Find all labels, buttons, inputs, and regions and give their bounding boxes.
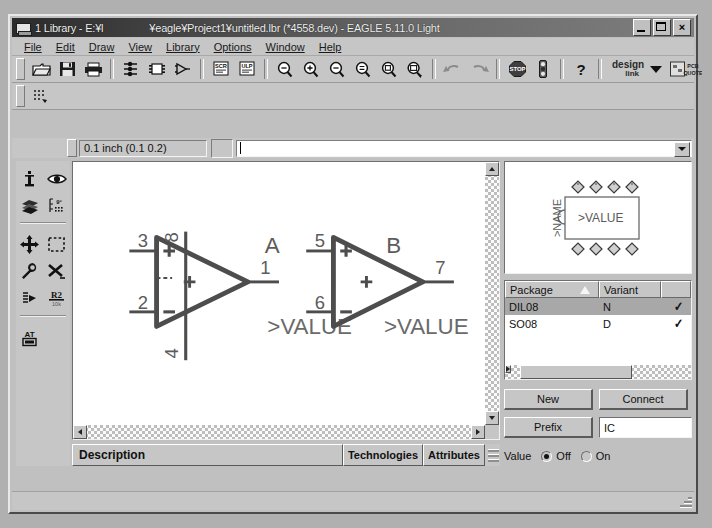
package-table-hscrollbar[interactable]: [505, 365, 691, 379]
ulp-icon[interactable]: ULP: [235, 58, 259, 81]
package-table-header: Package Variant: [505, 281, 691, 298]
save-icon[interactable]: [55, 58, 79, 81]
zoom-select-icon[interactable]: [377, 58, 401, 81]
paste-tool-icon[interactable]: [16, 285, 43, 312]
column-header-connected[interactable]: [661, 281, 691, 298]
undo-icon[interactable]: [441, 58, 465, 81]
preview-value-label: >VALUE: [578, 211, 623, 225]
prefix-input[interactable]: IC: [599, 417, 692, 438]
triangle-right-icon: [476, 429, 480, 435]
zoom-in-icon[interactable]: [299, 58, 323, 81]
device-edit-icon[interactable]: [171, 58, 195, 81]
menu-item-view[interactable]: View: [128, 41, 152, 53]
pkg-scroll-right-button[interactable]: [505, 365, 511, 373]
value-on-radio[interactable]: [581, 451, 592, 462]
print-icon[interactable]: [81, 58, 105, 81]
text-tool-icon[interactable]: AT: [16, 324, 43, 351]
package-preview[interactable]: >NAME >VALUE: [504, 161, 692, 274]
pkg-hscroll-thumb[interactable]: [520, 365, 632, 379]
scroll-down-button[interactable]: [485, 411, 499, 425]
connect-button[interactable]: Connect: [599, 389, 688, 410]
package-edit-icon[interactable]: [145, 58, 169, 81]
move-tool-icon[interactable]: [16, 231, 43, 258]
maximize-button[interactable]: [653, 19, 671, 36]
menu-item-options[interactable]: Options: [214, 41, 252, 53]
command-input[interactable]: [236, 140, 692, 157]
column-header-package[interactable]: Package: [505, 281, 599, 298]
pin-number: 5: [315, 230, 325, 251]
design-link-label-1: design: [612, 60, 644, 69]
zoom-redraw-icon[interactable]: [351, 58, 375, 81]
help-icon[interactable]: ?: [569, 58, 593, 81]
traffic-light-icon[interactable]: [531, 58, 555, 81]
stop-icon[interactable]: STOP: [505, 58, 529, 81]
svg-text:PCB: PCB: [688, 63, 699, 69]
menu-item-library[interactable]: Library: [166, 41, 200, 53]
svg-text:AT: AT: [24, 330, 34, 339]
command-history-dropdown[interactable]: [674, 142, 690, 157]
value-off-radio[interactable]: [541, 451, 552, 462]
menu-item-file[interactable]: File: [24, 41, 42, 53]
table-row[interactable]: DIL08 N ✓: [505, 298, 691, 315]
open-icon[interactable]: [29, 58, 53, 81]
change-tool-icon[interactable]: [16, 258, 43, 285]
layers-tool-icon[interactable]: [16, 192, 43, 219]
tool-palette: 9° R210k AT: [16, 161, 70, 466]
panel-splitter-grip[interactable]: [487, 444, 500, 466]
menu-item-edit[interactable]: Edit: [56, 41, 75, 53]
window-resize-grip[interactable]: [679, 495, 692, 508]
symbol-designator-a: A: [265, 233, 280, 258]
attributes-button[interactable]: Attributes: [423, 444, 485, 466]
table-row[interactable]: SO08 D ✓: [505, 315, 691, 332]
coordbar-spacer-box: [211, 139, 233, 158]
symbol-edit-icon[interactable]: [119, 58, 143, 81]
menu-item-draw[interactable]: Draw: [89, 41, 115, 53]
toolbar-grip[interactable]: [16, 58, 25, 80]
grid-tool-icon[interactable]: 9°: [43, 192, 70, 219]
close-icon: ×: [674, 20, 690, 35]
pcb-quote-button[interactable]: PCBQUOTE: [669, 58, 703, 81]
coordbar-grip[interactable]: [67, 139, 77, 157]
script-icon[interactable]: SCR: [209, 58, 233, 81]
zoom-out-icon[interactable]: [325, 58, 349, 81]
scroll-left-button[interactable]: [73, 425, 87, 439]
description-button[interactable]: Description: [72, 444, 343, 466]
minimize-button[interactable]: [633, 19, 651, 36]
grid-settings-icon[interactable]: [29, 85, 53, 108]
technologies-button[interactable]: Technologies: [343, 444, 423, 466]
prefix-button[interactable]: Prefix: [504, 417, 593, 438]
close-button[interactable]: ×: [673, 19, 691, 36]
chevron-down-icon[interactable]: [650, 66, 662, 73]
canvas-vertical-scrollbar[interactable]: [485, 162, 499, 425]
dip8-footprint: >NAME >VALUE: [505, 162, 691, 273]
cell-connected: ✓: [661, 298, 691, 315]
editor-canvas-area: 3 2 1 8 4 A >VALUE 5 6: [72, 161, 500, 440]
canvas-horizontal-scrollbar[interactable]: [73, 425, 485, 439]
show-tool-icon[interactable]: [43, 165, 70, 192]
zoom-fit-icon[interactable]: [273, 58, 297, 81]
design-link-button[interactable]: design link: [612, 58, 644, 81]
pin-number: 2: [138, 292, 148, 313]
delete-tool-icon[interactable]: [43, 258, 70, 285]
camera-icon[interactable]: [403, 58, 427, 81]
toolbar-grip-2[interactable]: [16, 85, 25, 107]
group-tool-icon[interactable]: [43, 231, 70, 258]
menu-bar: File Edit Draw View Library Options Wind…: [12, 38, 694, 56]
new-button[interactable]: New: [504, 389, 593, 410]
title-bar[interactable]: 1 Library - E:¥l¥eagle¥Project1¥untitled…: [12, 18, 694, 37]
menu-item-help[interactable]: Help: [319, 41, 342, 53]
symbol-canvas[interactable]: 3 2 1 8 4 A >VALUE 5 6: [73, 162, 485, 425]
scroll-right-button[interactable]: [471, 425, 485, 439]
column-header-variant[interactable]: Variant: [599, 281, 661, 298]
grid-coordinate-display[interactable]: 0.1 inch (0.1 0.2): [79, 140, 207, 157]
hscroll-track[interactable]: [73, 425, 485, 439]
vscroll-track[interactable]: [485, 162, 499, 425]
rename-tool-icon[interactable]: R210k: [43, 285, 70, 312]
info-tool-icon[interactable]: [16, 165, 43, 192]
package-table[interactable]: Package Variant DIL08 N ✓ SO08 D ✓: [504, 280, 692, 380]
scroll-up-button[interactable]: [485, 162, 499, 176]
menu-item-window[interactable]: Window: [266, 41, 305, 53]
redo-icon[interactable]: [467, 58, 491, 81]
svg-text:10k: 10k: [52, 301, 61, 307]
svg-text:STOP: STOP: [509, 66, 525, 72]
